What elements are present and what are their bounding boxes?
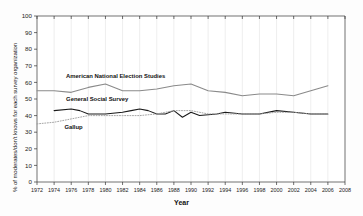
svg-text:80: 80: [25, 45, 32, 52]
svg-text:1988: 1988: [168, 187, 180, 193]
y-axis-ticks: 0102030405060708090100: [22, 12, 37, 185]
svg-text:1980: 1980: [99, 187, 111, 193]
svg-text:0: 0: [29, 178, 33, 185]
svg-text:50: 50: [25, 95, 32, 102]
svg-text:1984: 1984: [134, 187, 146, 193]
svg-text:100: 100: [22, 12, 33, 19]
svg-text:1998: 1998: [253, 187, 265, 193]
svg-text:1976: 1976: [65, 187, 77, 193]
y-axis-title-wrap: % of moderates/don't knows for each surv…: [0, 0, 14, 200]
svg-text:1990: 1990: [185, 187, 197, 193]
svg-text:2008: 2008: [339, 187, 351, 193]
svg-text:General Social Survey: General Social Survey: [66, 96, 129, 102]
svg-text:2004: 2004: [305, 187, 317, 193]
svg-text:2002: 2002: [288, 187, 300, 193]
svg-text:1972: 1972: [31, 187, 43, 193]
svg-text:1978: 1978: [82, 187, 94, 193]
svg-text:1992: 1992: [202, 187, 214, 193]
y-axis-title: % of moderates/don't knows for each surv…: [11, 43, 18, 192]
svg-text:60: 60: [25, 79, 32, 86]
svg-text:1996: 1996: [236, 187, 248, 193]
svg-text:1974: 1974: [48, 187, 60, 193]
svg-text:20: 20: [25, 145, 32, 152]
svg-text:90: 90: [25, 29, 32, 36]
svg-text:American National Election Stu: American National Election Studies: [66, 73, 166, 79]
svg-text:2006: 2006: [322, 187, 334, 193]
svg-text:2000: 2000: [271, 187, 283, 193]
svg-text:70: 70: [25, 62, 32, 69]
line-chart-plot: 1972197419761978198019821984198619881990…: [0, 0, 363, 216]
svg-text:1994: 1994: [219, 187, 231, 193]
svg-text:1986: 1986: [151, 187, 163, 193]
svg-text:40: 40: [25, 112, 32, 119]
svg-text:10: 10: [25, 162, 32, 169]
x-axis-title: Year: [0, 199, 363, 206]
chart-figure: % of moderates/don't knows for each surv…: [0, 0, 363, 216]
svg-text:Gallup: Gallup: [64, 124, 83, 130]
svg-text:30: 30: [25, 128, 32, 135]
svg-text:1982: 1982: [117, 187, 129, 193]
